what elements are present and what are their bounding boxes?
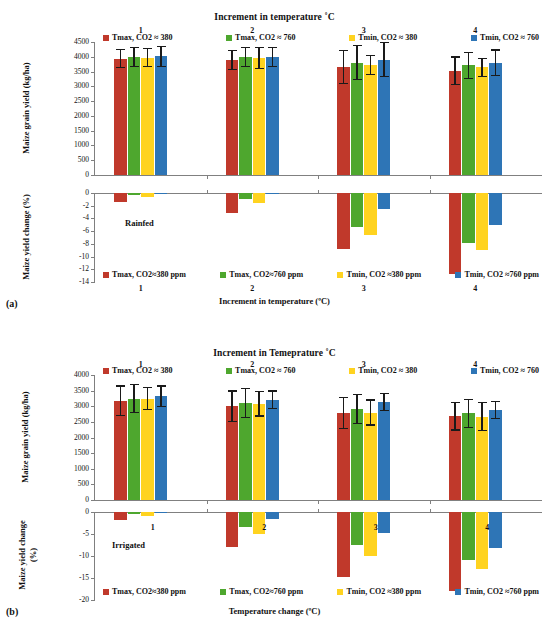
- y-tick-label: 1000: [51, 465, 92, 473]
- y-tick-label: 0: [51, 189, 92, 197]
- y-tick-label: 4500: [51, 38, 92, 46]
- bar-a-change-g3-s3: [364, 193, 377, 235]
- y-tick-label: -10: [51, 253, 92, 261]
- panel-b-legend-top-item-2: Tmax, CO2 ≈ 760: [226, 366, 295, 375]
- error-bar-cap-bottom: [241, 417, 250, 418]
- error-bar-cap-bottom: [130, 66, 139, 67]
- panel-b-x-axis-title: Temperature change (ºC): [0, 606, 549, 616]
- error-bar-stem: [272, 390, 273, 409]
- figure-root: Increment in temperature ˚C4500400035003…: [0, 0, 549, 635]
- bar-a-change-g3-s2: [351, 193, 364, 227]
- panel-a-legend-bottom-item-2: Tmax, CO2≈760 ppm: [220, 270, 303, 279]
- bar-b-change-g2-s1: [226, 512, 239, 547]
- y-tick-label: -20: [51, 596, 92, 604]
- panel-a-x-tick-2: 2: [242, 284, 262, 293]
- panel-a-x-tick-4: 4: [465, 284, 485, 293]
- error-bar-cap-bottom: [255, 415, 264, 416]
- y-tick-label: -4: [51, 214, 92, 222]
- panel-b-legend-top-item-1: Tmax, CO2 ≈ 380: [103, 366, 172, 375]
- error-bar-stem: [495, 401, 496, 419]
- legend-label-1: Tmax, CO2≈380 ppm: [112, 587, 186, 596]
- error-bar-cap-top: [228, 390, 237, 391]
- error-bar-a-yield-g3-s1: [337, 50, 350, 84]
- error-bar-stem: [454, 56, 455, 85]
- error-bar-cap-bottom: [366, 424, 375, 425]
- error-bar-cap-bottom: [380, 410, 389, 411]
- error-bar-stem: [133, 47, 134, 68]
- error-bar-a-yield-g1-s1: [114, 49, 127, 69]
- error-bar-cap-bottom: [353, 79, 362, 80]
- error-bar-cap-bottom: [268, 66, 277, 67]
- panel-a-legend-bottom-item-4: Tmin, CO2 ≈760 ppm: [455, 270, 539, 279]
- bar-b-yield-g2-s3: [253, 404, 266, 500]
- x-tickmark: [318, 501, 319, 504]
- panel-a-legend-top: Tmax, CO2 ≈ 380Tmax, CO2 ≈ 760Tmin, CO2 …: [103, 33, 539, 42]
- panel-b-legend-top-item-3: Tmin, CO2 ≈ 380: [349, 366, 417, 375]
- panel-b-x-tick-1: 1: [143, 523, 163, 532]
- error-bar-a-yield-g3-s2: [351, 45, 364, 80]
- bar-a-change-g1-s1: [114, 193, 127, 202]
- error-bar-b-yield-g1-s4: [155, 385, 168, 407]
- panel-b-change-axis-title-line1: Maize yield change: [17, 505, 28, 605]
- error-bar-stem: [258, 391, 259, 417]
- bar-b-yield-g1-s4: [155, 396, 168, 500]
- error-bar-b-yield-g2-s1: [226, 390, 239, 422]
- error-bar-stem: [370, 55, 371, 75]
- bar-a-change-g2-s1: [226, 193, 239, 213]
- error-bar-stem: [481, 402, 482, 431]
- y-tick-label: 2500: [51, 418, 92, 426]
- error-bar-cap-top: [228, 50, 237, 51]
- error-bar-cap-bottom: [478, 430, 487, 431]
- error-bar-cap-top: [366, 399, 375, 400]
- error-bar-b-yield-g3-s3: [364, 399, 377, 425]
- error-bar-cap-top: [451, 402, 460, 403]
- error-bar-stem: [160, 385, 161, 407]
- error-bar-a-yield-g4-s3: [476, 58, 489, 78]
- error-bar-cap-bottom: [380, 76, 389, 77]
- y-tick-label: 2500: [51, 97, 92, 105]
- error-bar-cap-bottom: [228, 69, 237, 70]
- bar-a-yield-g4-s1: [449, 71, 462, 175]
- y-tick-label: -8: [51, 240, 92, 248]
- panel-a-legend-bottom-item-1: Tmax, CO2≈380 ppm: [103, 270, 186, 279]
- error-bar-cap-top: [268, 47, 277, 48]
- y-axis-line-b-change: [94, 512, 95, 601]
- error-bar-b-yield-g4-s2: [462, 399, 475, 428]
- bar-b-yield-g4-s4: [489, 410, 502, 500]
- error-bar-cap-top: [157, 46, 166, 47]
- error-bar-a-yield-g2-s1: [226, 50, 239, 71]
- legend-swatch-4: [471, 35, 477, 41]
- bar-b-yield-g3-s3: [364, 413, 377, 501]
- legend-label-1: Tmax, CO2 ≈ 380: [112, 33, 172, 42]
- error-bar-a-yield-g4-s2: [462, 52, 475, 79]
- error-bar-a-yield-g1-s3: [141, 48, 154, 68]
- error-bar-cap-top: [353, 45, 362, 46]
- error-bar-stem: [383, 42, 384, 77]
- bar-a-change-g4-s1: [449, 193, 462, 274]
- error-bar-b-yield-g4-s3: [476, 402, 489, 431]
- y-tick-label: 1500: [51, 449, 92, 457]
- error-bar-cap-bottom: [116, 415, 125, 416]
- y-tick-label: 0: [51, 496, 92, 504]
- panel-b-yield-axis-title: Maize grain yield (kg/ha): [20, 371, 30, 503]
- y-tick-label: 4000: [51, 53, 92, 61]
- panel-a-condition-label: Rainfed: [125, 218, 154, 228]
- panel-b-x-tick-3: 3: [366, 523, 386, 532]
- panel-a-x-tick-3: 3: [354, 284, 374, 293]
- panel-b-x-tick-2: 2: [254, 523, 274, 532]
- bar-a-yield-g3-s3: [364, 65, 377, 175]
- legend-swatch-3: [349, 35, 355, 41]
- panel-a-legend-top-item-1: Tmax, CO2 ≈ 380: [103, 33, 172, 42]
- bar-a-yield-g1-s4: [155, 56, 168, 175]
- y-tick-label: -14: [51, 278, 92, 286]
- panel-b-title: Increment in Temeprature ˚C: [0, 348, 549, 358]
- panel-a-x-axis-title: Increment in temperature (ºC): [0, 296, 549, 306]
- error-bar-cap-bottom: [491, 418, 500, 419]
- legend-label-3: Tmin, CO2 ≈380 ppm: [346, 270, 421, 279]
- error-bar-cap-bottom: [143, 66, 152, 67]
- legend-swatch-2: [220, 272, 226, 278]
- error-bar-cap-top: [116, 385, 125, 386]
- y-tick-label: 3500: [51, 387, 92, 395]
- legend-label-4: Tmin, CO2 ≈760 ppm: [464, 270, 539, 279]
- error-bar-a-yield-g4-s1: [449, 56, 462, 85]
